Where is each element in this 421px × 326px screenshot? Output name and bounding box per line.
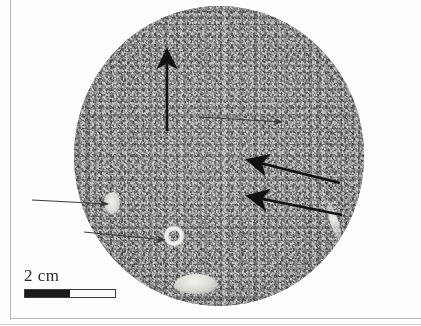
scale-bar-segment-light <box>70 290 115 297</box>
ct-scan-figure: 2 cm <box>0 0 421 326</box>
scale-bar-track <box>24 289 116 298</box>
frame-border-bottom-secondary <box>0 324 421 325</box>
scale-bar-label: 2 cm <box>24 266 116 286</box>
scale-bar: 2 cm <box>24 266 116 298</box>
scale-bar-segment-dark <box>25 290 70 297</box>
ct-vignette <box>74 6 364 306</box>
frame-border-left <box>10 0 11 320</box>
frame-border-bottom <box>10 318 421 319</box>
ct-slice-disc <box>74 6 364 306</box>
